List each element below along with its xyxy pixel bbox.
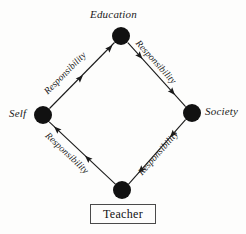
node-education[interactable] (112, 27, 130, 45)
node-label-education: Education (90, 8, 137, 20)
edge-line (128, 43, 186, 107)
diagram-canvas: Education Self Society Responsibility Re… (0, 0, 246, 234)
edge-education-to-society (128, 43, 186, 107)
node-label-society: Society (205, 105, 238, 117)
node-label-self: Self (9, 107, 26, 119)
teacher-box-label: Teacher (103, 207, 143, 222)
node-teacher[interactable] (113, 181, 131, 199)
node-self[interactable] (34, 106, 52, 124)
teacher-box[interactable]: Teacher (90, 204, 156, 224)
diagram-graphics (0, 0, 246, 234)
node-society[interactable] (183, 104, 201, 122)
